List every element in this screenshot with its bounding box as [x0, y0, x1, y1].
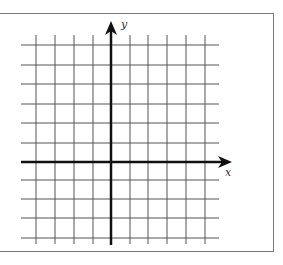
y-axis-label: y: [121, 19, 127, 30]
x-axis-label: x: [225, 167, 231, 178]
coordinate-grid: [0, 0, 283, 265]
